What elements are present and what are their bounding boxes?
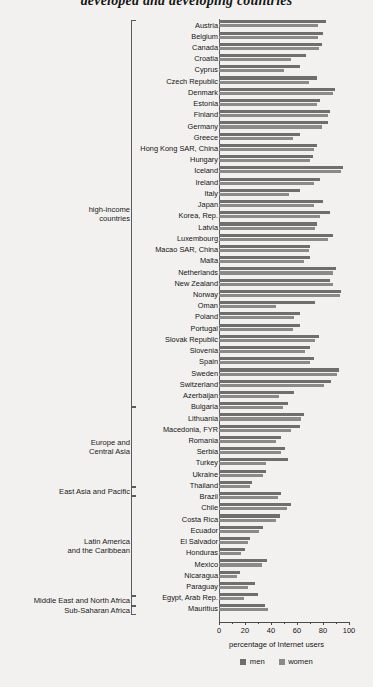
bar-women bbox=[219, 260, 304, 263]
category-label: Ireland bbox=[195, 179, 218, 186]
bar-women bbox=[219, 137, 293, 140]
bar-women bbox=[219, 125, 322, 128]
bar-women bbox=[219, 373, 337, 376]
group-label: Latin Americaand the Caribbean bbox=[68, 537, 131, 555]
x-tick-label: 0 bbox=[207, 626, 231, 635]
category-label: Cyprus bbox=[195, 66, 218, 73]
bar-men bbox=[219, 189, 300, 192]
category-label: Honduras bbox=[186, 549, 218, 556]
bar-men bbox=[219, 481, 252, 484]
bar-women bbox=[219, 586, 248, 589]
category-label: Bulgaria bbox=[191, 403, 218, 410]
category-label: Malta bbox=[200, 257, 218, 264]
bar-men bbox=[219, 65, 300, 68]
category-label: Greece bbox=[194, 134, 218, 141]
category-label: Iceland bbox=[194, 167, 218, 174]
chart-legend: men women bbox=[180, 657, 373, 666]
x-axis-label: percentage of Internet users bbox=[180, 640, 373, 649]
category-label: Chile bbox=[201, 504, 218, 511]
category-label: Latvia bbox=[198, 224, 218, 231]
bar-women bbox=[219, 92, 333, 95]
category-label: Slovak Republic bbox=[165, 336, 218, 343]
category-label: Canada bbox=[192, 44, 218, 51]
category-label: Egypt, Arab Rep. bbox=[162, 594, 218, 601]
bar-men bbox=[219, 380, 331, 383]
legend-label-men: men bbox=[250, 657, 265, 666]
category-label: Ecuador bbox=[190, 527, 218, 534]
x-tick-label: 100 bbox=[337, 626, 361, 635]
group-bracket bbox=[131, 407, 136, 486]
category-label: Macedonia, FYR bbox=[163, 426, 218, 433]
bar-women bbox=[219, 316, 294, 319]
bar-women bbox=[219, 575, 237, 578]
bar-men bbox=[219, 346, 310, 349]
bar-men bbox=[219, 514, 280, 517]
bar-men bbox=[219, 425, 300, 428]
legend-swatch-men-icon bbox=[240, 659, 246, 665]
category-label: Finland bbox=[194, 111, 218, 118]
x-tick bbox=[349, 622, 350, 625]
category-label: Austria bbox=[195, 22, 218, 29]
bar-women bbox=[219, 474, 263, 477]
bar-men bbox=[219, 267, 336, 270]
bar-men bbox=[219, 76, 317, 79]
bar-women bbox=[219, 451, 281, 454]
bar-men bbox=[219, 324, 300, 327]
category-label: Portugal bbox=[190, 325, 218, 332]
bar-women bbox=[219, 361, 310, 364]
bar-men bbox=[219, 166, 343, 169]
category-label: Brazil bbox=[200, 493, 218, 500]
bar-women bbox=[219, 328, 293, 331]
bar-men bbox=[219, 571, 240, 574]
category-label: Thailand bbox=[190, 482, 218, 489]
bar-women bbox=[219, 294, 340, 297]
category-label: Netherlands bbox=[178, 269, 218, 276]
bar-women bbox=[219, 563, 262, 566]
bar-men bbox=[219, 436, 281, 439]
category-label: Italy bbox=[204, 190, 218, 197]
group-label: Middle East and North Africa bbox=[34, 596, 130, 605]
bar-men bbox=[219, 110, 330, 113]
bar-women bbox=[219, 227, 315, 230]
group-bracket bbox=[131, 496, 136, 595]
group-bracket bbox=[131, 20, 136, 407]
bar-men bbox=[219, 211, 330, 214]
legend-item-men: men bbox=[240, 657, 264, 666]
category-label: Korea, Rep. bbox=[179, 212, 218, 219]
group-bracket bbox=[131, 606, 136, 616]
bar-women bbox=[219, 608, 268, 611]
bar-men bbox=[219, 548, 245, 551]
bar-women bbox=[219, 339, 315, 342]
bar-men bbox=[219, 503, 291, 506]
group-label: Europe andCentral Asia bbox=[89, 438, 130, 456]
bar-men bbox=[219, 526, 263, 529]
x-tick bbox=[297, 622, 298, 625]
bar-women bbox=[219, 417, 301, 420]
bar-women bbox=[219, 552, 241, 555]
x-tick-label: 60 bbox=[285, 626, 309, 635]
bar-men bbox=[219, 133, 300, 136]
bar-women bbox=[219, 541, 248, 544]
bar-women bbox=[219, 507, 287, 510]
category-label: Germany bbox=[188, 123, 218, 130]
bar-men bbox=[219, 155, 313, 158]
category-label: Norway bbox=[193, 291, 218, 298]
bar-women bbox=[219, 193, 289, 196]
category-label: Switzerland bbox=[180, 381, 218, 388]
bar-men bbox=[219, 32, 323, 35]
category-label: Japan bbox=[198, 201, 218, 208]
bar-men bbox=[219, 200, 323, 203]
category-label: Nicaragua bbox=[184, 572, 218, 579]
category-label: Paraguay bbox=[186, 583, 218, 590]
bar-men bbox=[219, 178, 320, 181]
category-label: Ukraine bbox=[193, 471, 218, 478]
bar-women bbox=[219, 47, 319, 50]
bar-women bbox=[219, 496, 278, 499]
bar-men bbox=[219, 593, 258, 596]
bar-women bbox=[219, 406, 283, 409]
category-label: El Salvador bbox=[180, 538, 218, 545]
bar-women bbox=[219, 350, 305, 353]
category-label: Romania bbox=[188, 437, 218, 444]
bar-women bbox=[219, 36, 318, 39]
x-tick-label: 20 bbox=[233, 626, 257, 635]
